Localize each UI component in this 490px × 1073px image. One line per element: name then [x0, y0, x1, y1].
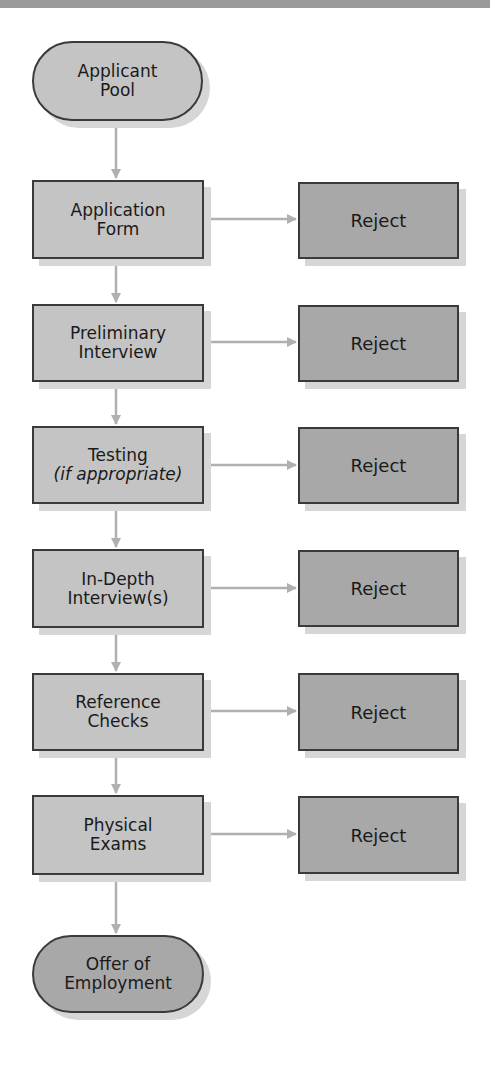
connector-arrows	[0, 0, 490, 1073]
start-node-applicant-pool: Applicant Pool	[32, 41, 203, 121]
node-label-line2: Checks	[75, 712, 161, 731]
step-in-depth-interviews: In-Depth Interview(s)	[32, 549, 204, 628]
node-label-line2: (if appropriate)	[54, 465, 183, 484]
node-label-line1: Application	[71, 201, 166, 220]
reject-node-3: Reject	[298, 427, 459, 504]
node-label-line1: Reference	[75, 693, 161, 712]
reject-label: Reject	[351, 334, 407, 353]
node-label-line2: Form	[71, 220, 166, 239]
node-label-line2: Employment	[64, 974, 172, 993]
reject-node-5: Reject	[298, 673, 459, 751]
node-label-line2: Exams	[83, 835, 152, 854]
node-label-line2: Interview(s)	[67, 589, 168, 608]
reject-label: Reject	[351, 703, 407, 722]
node-label-line1: Offer of	[64, 955, 172, 974]
node-label-line1: Preliminary	[70, 324, 166, 343]
node-label-line1: Applicant	[78, 62, 158, 81]
end-node-offer-of-employment: Offer of Employment	[32, 935, 204, 1013]
node-label-line1: In-Depth	[67, 570, 168, 589]
step-physical-exams: Physical Exams	[32, 795, 204, 875]
reject-label: Reject	[351, 211, 407, 230]
reject-label: Reject	[351, 826, 407, 845]
reject-node-2: Reject	[298, 305, 459, 382]
reject-node-1: Reject	[298, 182, 459, 259]
node-label-line2: Pool	[78, 81, 158, 100]
step-reference-checks: Reference Checks	[32, 673, 204, 751]
step-testing: Testing (if appropriate)	[32, 426, 204, 504]
node-label-line1: Physical	[83, 816, 152, 835]
reject-node-6: Reject	[298, 796, 459, 874]
node-label-line1: Testing	[54, 446, 183, 465]
reject-node-4: Reject	[298, 550, 459, 627]
step-preliminary-interview: Preliminary Interview	[32, 304, 204, 382]
node-label-line2: Interview	[70, 343, 166, 362]
reject-label: Reject	[351, 579, 407, 598]
reject-label: Reject	[351, 456, 407, 475]
step-application-form: Application Form	[32, 180, 204, 259]
